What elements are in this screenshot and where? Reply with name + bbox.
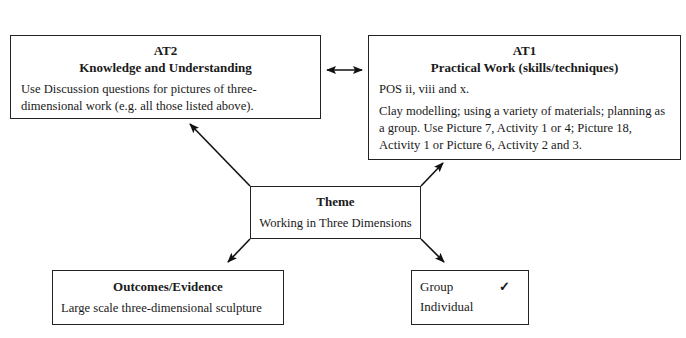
at2-heading: AT2 <box>21 42 310 59</box>
grouping-box: Group ✓ Individual <box>411 270 529 325</box>
at2-text-line: dimensional work (e.g. all those listed … <box>21 98 310 115</box>
check-icon <box>510 297 520 317</box>
arrow-theme-to-grouping <box>421 239 444 262</box>
at1-pos: POS ii, viii and x. <box>379 81 670 98</box>
theme-box: Theme Working in Three Dimensions <box>250 186 421 239</box>
at1-text-line: Activity 1 or Picture 6, Activity 2 and … <box>379 137 670 154</box>
outcomes-box: Outcomes/Evidence Large scale three-dime… <box>52 270 284 325</box>
at2-text-line: Use Discussion questions for pictures of… <box>21 81 310 98</box>
check-icon: ✓ <box>499 277 520 297</box>
at1-subheading: Practical Work (skills/techniques) <box>379 59 670 76</box>
option-individual: Individual <box>420 297 520 317</box>
outcomes-text: Large scale three-dimensional sculpture <box>61 300 275 317</box>
option-group: Group ✓ <box>420 277 520 297</box>
arrow-theme-to-outcomes <box>228 239 250 262</box>
option-label: Group <box>420 277 453 297</box>
option-label: Individual <box>420 297 473 317</box>
arrow-theme-to-at1 <box>421 163 443 186</box>
at1-box: AT1 Practical Work (skills/techniques) P… <box>368 35 681 160</box>
theme-heading: Theme <box>251 193 420 210</box>
arrow-theme-to-at2 <box>190 124 250 186</box>
at1-text-line: a group. Use Picture 7, Activity 1 or 4;… <box>379 120 670 137</box>
outcomes-heading: Outcomes/Evidence <box>61 278 275 295</box>
at2-subheading: Knowledge and Understanding <box>21 59 310 76</box>
at1-heading: AT1 <box>379 42 670 59</box>
at1-text-line: Clay modelling; using a variety of mater… <box>379 103 670 120</box>
at2-box: AT2 Knowledge and Understanding Use Disc… <box>10 35 321 119</box>
theme-text: Working in Three Dimensions <box>251 215 420 232</box>
